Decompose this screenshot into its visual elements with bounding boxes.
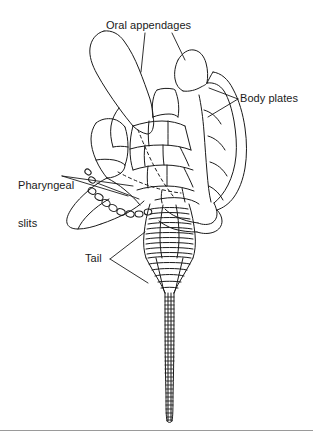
tail-taper <box>146 258 193 293</box>
bottom-divider <box>0 430 313 431</box>
oral-plate-square <box>152 88 179 117</box>
label-pharyngeal-slits: Pharyngeal slits <box>18 154 74 254</box>
label-tail: Tail <box>85 252 102 265</box>
tail-shaft <box>165 293 174 423</box>
label-oral-appendages: Oral appendages <box>106 19 191 32</box>
leader-tail-upper <box>110 232 145 259</box>
leader-tail-lower <box>110 259 148 283</box>
body-outline <box>111 72 247 234</box>
oral-appendage-lobe-right <box>175 50 208 91</box>
leader-oral-appendages-left <box>141 33 145 72</box>
oral-appendage-lobe-left <box>90 31 154 134</box>
body-plates-left-cluster <box>91 119 128 178</box>
label-pharyngeal-slits-line1: Pharyngeal <box>18 179 74 192</box>
label-pharyngeal-slits-line2: slits <box>18 217 74 230</box>
leader-body-plates-lower <box>208 99 238 117</box>
leader-oral-appendages-right <box>172 33 185 60</box>
figure-root: Oral appendages Body plates Pharyngeal s… <box>0 0 313 443</box>
label-body-plates: Body plates <box>240 92 298 105</box>
